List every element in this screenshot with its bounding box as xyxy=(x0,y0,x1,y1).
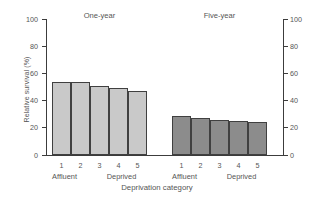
y-tick-right-20 xyxy=(284,127,288,128)
bar-five-year-cat-1 xyxy=(172,116,191,155)
bar-five-year-cat-2 xyxy=(191,118,210,155)
y-tick-label-right-0: 0 xyxy=(290,151,312,160)
end-label-deprived-1: Deprived xyxy=(99,172,145,181)
relative-survival-bar-chart: Relative survival (%) 020406080100 02040… xyxy=(0,0,314,209)
y-tick-left-100 xyxy=(42,19,46,20)
y-tick-right-40 xyxy=(284,100,288,101)
bar-one-year-cat-5 xyxy=(128,91,147,155)
bar-one-year-cat-4 xyxy=(109,88,128,155)
bar-one-year-cat-2 xyxy=(71,82,90,155)
y-tick-left-40 xyxy=(42,100,46,101)
category-number-1-1: 1 xyxy=(54,161,70,170)
bar-five-year-cat-3 xyxy=(210,120,229,155)
y-tick-label-right-40: 40 xyxy=(290,96,312,105)
category-number-1-5: 5 xyxy=(130,161,146,170)
y-tick-label-right-60: 60 xyxy=(290,69,312,78)
group-title-five-year: Five-year xyxy=(180,11,260,20)
y-tick-label-right-80: 80 xyxy=(290,42,312,51)
group-title-one-year: One-year xyxy=(60,11,140,20)
end-label-affluent-1: Affluent xyxy=(42,172,88,181)
y-tick-left-80 xyxy=(42,46,46,47)
y-axis-left-line xyxy=(46,19,47,156)
y-tick-label-left-40: 40 xyxy=(16,96,38,105)
category-number-2-4: 4 xyxy=(231,161,247,170)
y-tick-right-0 xyxy=(284,155,288,156)
bar-five-year-cat-5 xyxy=(248,122,267,155)
end-label-affluent-2: Affluent xyxy=(162,172,208,181)
bar-five-year-cat-4 xyxy=(229,121,248,155)
y-axis-right-line xyxy=(283,19,284,156)
y-tick-left-0 xyxy=(42,155,46,156)
y-tick-label-left-80: 80 xyxy=(16,42,38,51)
y-tick-label-right-100: 100 xyxy=(290,15,312,24)
y-tick-left-20 xyxy=(42,127,46,128)
y-tick-label-left-0: 0 xyxy=(16,151,38,160)
y-tick-right-60 xyxy=(284,73,288,74)
y-tick-label-right-20: 20 xyxy=(290,123,312,132)
x-axis-line xyxy=(46,155,284,156)
category-number-1-3: 3 xyxy=(92,161,108,170)
category-number-2-1: 1 xyxy=(174,161,190,170)
y-tick-label-left-20: 20 xyxy=(16,123,38,132)
category-number-1-2: 2 xyxy=(73,161,89,170)
y-tick-label-left-100: 100 xyxy=(16,15,38,24)
category-number-1-4: 4 xyxy=(111,161,127,170)
bar-one-year-cat-1 xyxy=(52,82,71,155)
category-number-2-3: 3 xyxy=(212,161,228,170)
category-number-2-2: 2 xyxy=(193,161,209,170)
y-tick-label-left-60: 60 xyxy=(16,69,38,78)
end-label-deprived-2: Deprived xyxy=(219,172,265,181)
y-tick-right-80 xyxy=(284,46,288,47)
y-tick-right-100 xyxy=(284,19,288,20)
category-number-2-5: 5 xyxy=(250,161,266,170)
y-tick-left-60 xyxy=(42,73,46,74)
x-axis-label: Deprivation category xyxy=(0,183,314,192)
bar-one-year-cat-3 xyxy=(90,86,109,155)
